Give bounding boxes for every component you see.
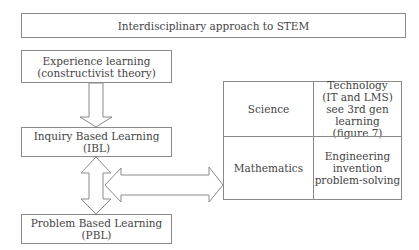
- arrows-layer: [0, 0, 419, 250]
- down-arrow-icon: [80, 83, 112, 127]
- horizontal-double-arrow-icon: [105, 167, 223, 202]
